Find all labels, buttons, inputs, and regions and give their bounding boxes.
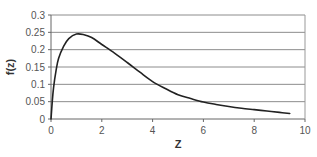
gridlines (51, 15, 305, 102)
y-axis-label: f(z) (4, 58, 16, 75)
series-line-f-z (51, 34, 290, 119)
x-tick-label: 6 (201, 125, 207, 136)
y-tick-label: 0.3 (31, 10, 45, 21)
x-tick-label: 10 (299, 125, 311, 136)
x-axis-label: Z (175, 138, 182, 150)
y-tick-label: 0.15 (26, 62, 46, 73)
x-axis-ticks: 0246810 (48, 119, 311, 136)
x-tick-label: 2 (99, 125, 105, 136)
y-tick-label: 0 (39, 114, 45, 125)
x-tick-label: 4 (150, 125, 156, 136)
y-tick-label: 0.1 (31, 79, 45, 90)
y-tick-label: 0.25 (26, 27, 46, 38)
y-tick-label: 0.05 (26, 96, 46, 107)
y-axis-ticks: 00.050.10.150.20.250.3 (26, 10, 51, 125)
x-tick-label: 0 (48, 125, 54, 136)
y-tick-label: 0.2 (31, 44, 45, 55)
x-tick-label: 8 (251, 125, 257, 136)
chart: 00.050.10.150.20.250.3 0246810 f(z) Z (0, 0, 317, 157)
